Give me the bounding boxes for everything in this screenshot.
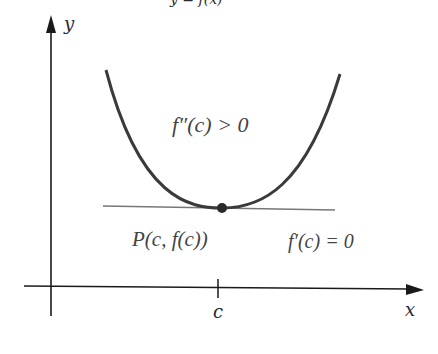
local-minimum-diagram: y = f(x) y x c f″(c) > 0 P(c, f(c)) f′(c… — [0, 0, 438, 354]
top-caption-fragment: y = f(x) — [169, 0, 223, 7]
concavity-label: f″(c) > 0 — [172, 112, 249, 137]
point-p — [217, 203, 227, 213]
tick-label-c: c — [213, 301, 223, 322]
y-axis-arrow-icon — [46, 15, 56, 33]
concave-up-curve — [106, 70, 340, 208]
x-axis-arrow-icon — [406, 284, 424, 295]
y-axis-label: y — [63, 13, 75, 34]
x-axis-label: x — [405, 299, 415, 320]
x-axis — [24, 286, 410, 289]
concavity-text: f″(c) > 0 — [172, 112, 249, 137]
slope-label: f′(c) = 0 — [288, 230, 354, 253]
point-label: P(c, f(c)) — [131, 227, 208, 251]
